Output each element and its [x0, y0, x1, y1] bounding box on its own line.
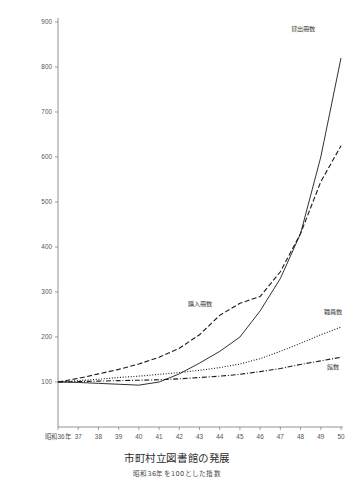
x-tick-label: 43: [196, 433, 204, 440]
series-line-購入冊数: [58, 146, 341, 382]
x-tick-label: 38: [95, 433, 103, 440]
x-tick-label: 40: [135, 433, 143, 440]
x-tick-label: 45: [236, 433, 244, 440]
y-tick-label: 700: [41, 108, 52, 115]
title-block: 市町村立図書館の発展 昭和36年を100とした指数: [0, 450, 354, 478]
x-tick-label: 48: [297, 433, 305, 440]
y-tick-label: 400: [41, 243, 52, 250]
x-tick-label: 49: [317, 433, 325, 440]
x-tick-label: 46: [257, 433, 265, 440]
x-tick-label: 37: [75, 433, 83, 440]
series-line-貸出冊数: [58, 58, 341, 385]
y-tick-label: 300: [41, 288, 52, 295]
x-tick-label: 50: [337, 433, 345, 440]
x-tick-label: 42: [176, 433, 184, 440]
chart-subtitle: 昭和36年を100とした指数: [0, 468, 354, 478]
chart-container: 100200300400500600700800900昭和36年37383940…: [0, 0, 354, 479]
series-label-職員数: 職員数: [324, 308, 343, 316]
y-tick-label: 900: [41, 18, 52, 25]
x-tick-label: 昭和36年: [45, 432, 71, 441]
x-tick-label: 41: [156, 433, 164, 440]
y-tick-label: 200: [41, 333, 52, 340]
y-tick-label: 100: [41, 378, 52, 385]
y-tick-label: 600: [41, 153, 52, 160]
chart-title: 市町村立図書館の発展: [0, 450, 354, 465]
line-chart: 100200300400500600700800900昭和36年37383940…: [0, 0, 354, 445]
series-label-貸出冊数: 貸出冊数: [291, 25, 316, 33]
series-label-館数: 館数: [327, 363, 340, 371]
series-label-購入冊数: 購入冊数: [188, 300, 213, 308]
x-tick-label: 44: [216, 433, 224, 440]
y-tick-label: 800: [41, 63, 52, 70]
x-tick-label: 47: [277, 433, 285, 440]
y-tick-label: 500: [41, 198, 52, 205]
series-line-館数: [58, 357, 341, 382]
x-tick-label: 39: [115, 433, 123, 440]
